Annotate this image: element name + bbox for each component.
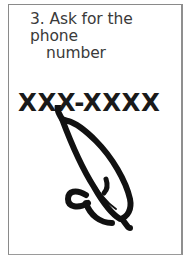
step-number: 3. [30, 10, 45, 28]
step-text-line2: number [30, 45, 180, 62]
step-text-line1: Ask for the phone [30, 10, 133, 45]
telephone-handset-icon [50, 105, 142, 235]
step-instruction: 3. Ask for the phone number [30, 11, 180, 62]
